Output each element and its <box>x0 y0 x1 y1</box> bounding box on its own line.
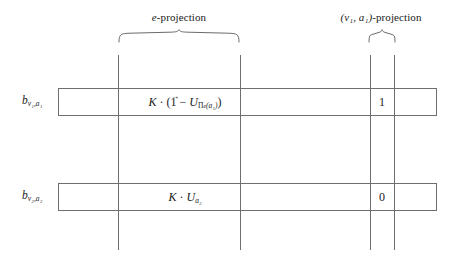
row-label-b-v1-a1: bv₁,a₁ <box>22 95 42 108</box>
brace-v1-a1-projection <box>368 29 396 43</box>
group-label-v1-a1-projection: (v₁, a₁)-projection <box>311 12 451 23</box>
row-label-b-v2-a2: bv₂,a₂ <box>22 190 42 203</box>
row-1-formula-close: ) <box>217 95 221 109</box>
row-1-formula-u-sub-arg: (a₁) <box>206 101 217 110</box>
row-1-formula-k: K <box>149 95 157 109</box>
row-2-formula: K · Ua₂ <box>120 191 250 205</box>
brace-e-projection <box>118 29 240 43</box>
guide-line-2 <box>240 55 241 250</box>
group-label-v1a1-suffix: -projection <box>372 11 421 23</box>
row-1-formula-one-vector: →1 <box>171 96 177 108</box>
row-1-projection-value: 1 <box>370 96 394 108</box>
group-label-v1a1-prefix: (v₁, a₁) <box>340 11 372 23</box>
row-2-formula-k: K <box>168 190 176 204</box>
row-1-formula-minus: − <box>180 95 187 109</box>
guide-line-1 <box>118 55 119 250</box>
vector-arrow-icon: → <box>170 92 181 101</box>
row-2-projection-value: 0 <box>370 191 394 203</box>
group-label-e-projection: e-projection <box>118 12 240 23</box>
projection-diagram: e-projection (v₁, a₁)-projection bv₁,a₁ … <box>0 0 453 268</box>
row-1-formula-u: U <box>189 95 198 109</box>
row-2-formula-u-sub: a₂ <box>195 196 201 205</box>
row-label-sub-1: v₁,a₁ <box>28 99 43 108</box>
group-label-e-suffix: -projection <box>157 11 206 23</box>
row-2-formula-u: U <box>186 190 195 204</box>
row-label-sub-2: v₂,a₂ <box>28 194 43 203</box>
guide-line-3 <box>370 55 371 250</box>
row-1-formula-dot: · <box>160 95 164 109</box>
row-1-extra-rule <box>97 115 437 116</box>
row-2-formula-dot: · <box>179 190 183 204</box>
guide-line-4 <box>394 55 395 250</box>
row-1-formula: K · (→1 − UΠe(a₁)) <box>120 96 250 110</box>
